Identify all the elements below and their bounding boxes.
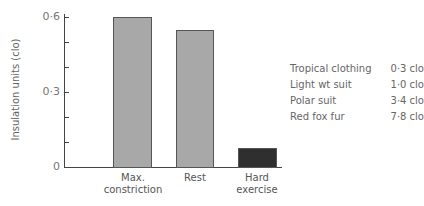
reference-row: Tropical clothing 0·3 clo bbox=[290, 60, 424, 76]
y-tick bbox=[65, 17, 69, 18]
y-tick-label: 0·3 bbox=[38, 85, 60, 98]
y-tick bbox=[65, 42, 69, 43]
y-tick-label: 0·6 bbox=[38, 10, 60, 23]
y-axis-line bbox=[64, 14, 65, 168]
bar-hard-exercise bbox=[238, 148, 277, 168]
category-label-max-constriction: Max. constriction bbox=[98, 172, 168, 196]
y-tick bbox=[65, 142, 69, 143]
y-tick bbox=[65, 117, 69, 118]
category-label-rest: Rest bbox=[160, 172, 230, 184]
bar-rest bbox=[176, 30, 214, 168]
y-tick-label: 0 bbox=[38, 160, 60, 173]
reference-row: Polar suit 3·4 clo bbox=[290, 92, 424, 108]
bar-max-constriction bbox=[113, 17, 152, 168]
y-axis-label: Insulation units (clo) bbox=[10, 35, 21, 145]
clo-reference-table: Tropical clothing 0·3 clo Light wt suit … bbox=[290, 60, 424, 124]
y-tick bbox=[65, 92, 69, 93]
reference-row: Red fox fur 7·8 clo bbox=[290, 108, 424, 124]
reference-row: Light wt suit 1·0 clo bbox=[290, 76, 424, 92]
y-tick bbox=[65, 67, 69, 68]
category-label-hard-exercise: Hard exercise bbox=[222, 172, 292, 196]
